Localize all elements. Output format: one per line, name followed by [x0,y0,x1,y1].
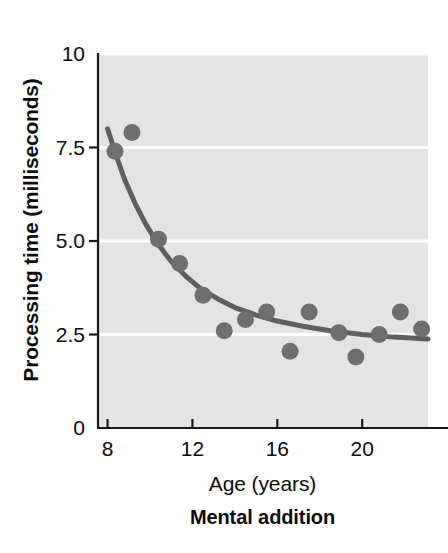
data-point [330,324,347,341]
data-point [195,287,212,304]
data-point [123,124,140,141]
y-tick-label: 2.5 [25,323,85,347]
x-tick-label: 16 [257,437,297,461]
data-point [258,304,275,321]
data-point [171,255,188,272]
data-point [106,143,123,160]
x-tick-label: 12 [172,437,212,461]
y-tick-label: 0 [25,416,85,440]
data-point [392,304,409,321]
plot-canvas [0,0,448,553]
y-tick-label: 10 [25,42,85,66]
data-point [282,343,299,360]
data-point [150,231,167,248]
chart-figure: Processing time (milliseconds) 02.55.07.… [0,0,448,553]
data-point [413,320,430,337]
y-tick-label: 5.0 [25,229,85,253]
data-point [237,311,254,328]
data-point [301,304,318,321]
data-point [216,322,233,339]
data-point [371,326,388,343]
x-tick-label: 8 [88,437,128,461]
x-axis-title: Age (years) [97,472,428,496]
x-tick-label: 20 [342,437,382,461]
chart-caption: Mental addition [97,506,428,529]
y-tick-label: 7.5 [25,136,85,160]
data-point [347,348,364,365]
y-axis-ticks [89,148,98,335]
